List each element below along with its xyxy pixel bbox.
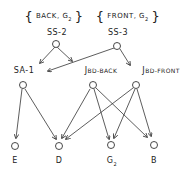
edge-sa1-e [16, 89, 22, 138]
set-subscript: 2 [145, 16, 149, 22]
label-jbd-back: JBD-BACK [85, 67, 118, 75]
edge-jbdfront-g2 [114, 89, 135, 138]
node-e [12, 143, 19, 150]
node-d [56, 143, 63, 150]
open-brace: { [96, 9, 105, 24]
node-g2 [108, 142, 115, 149]
node-jbd-back [90, 82, 97, 89]
label-subscript: 2 [114, 161, 118, 167]
label-main: G [107, 156, 114, 165]
edge-ss3-jbd-front [120, 49, 130, 65]
graph-edges [0, 0, 196, 177]
node-sa1 [20, 82, 27, 89]
diagram-canvas: { BACK, G2 } { FRONT, G2 } SS-2 SS-3 SA-… [0, 0, 196, 177]
label-subscript: BD-BACK [88, 67, 118, 74]
node-b [151, 142, 158, 149]
label-jbd-front: JBD-FRONT [142, 67, 179, 75]
edge-jbdback-b [96, 88, 147, 137]
node-jbd-front [133, 82, 140, 89]
edge-ss2-sa1 [40, 47, 55, 63]
label-subscript: BD-FRONT [145, 67, 180, 74]
label-e: E [12, 157, 18, 165]
ss3-set-label: { FRONT, G2 } [96, 10, 161, 23]
label-b: B [151, 157, 157, 165]
set-text: BACK, G [36, 12, 68, 20]
edge-sa1-d [25, 89, 56, 139]
node-ss2 [53, 41, 60, 48]
close-brace: } [75, 9, 84, 24]
label-d: D [56, 157, 63, 165]
set-text: FRONT, G [107, 12, 145, 20]
edge-jbdback-g2 [94, 89, 109, 139]
edge-ss2-jbd-back [57, 47, 72, 61]
node-ss3 [114, 43, 121, 50]
label-g2: G2 [107, 157, 117, 167]
open-brace: { [24, 9, 33, 24]
label-ss3: SS-3 [108, 29, 128, 37]
close-brace: } [151, 9, 160, 24]
edge-jbdback-d [62, 89, 90, 138]
ss2-set-label: { BACK, G2 } [24, 10, 83, 23]
label-ss2: SS-2 [47, 29, 67, 37]
label-sa1: SA-1 [14, 67, 35, 75]
set-subscript: 2 [68, 16, 72, 22]
